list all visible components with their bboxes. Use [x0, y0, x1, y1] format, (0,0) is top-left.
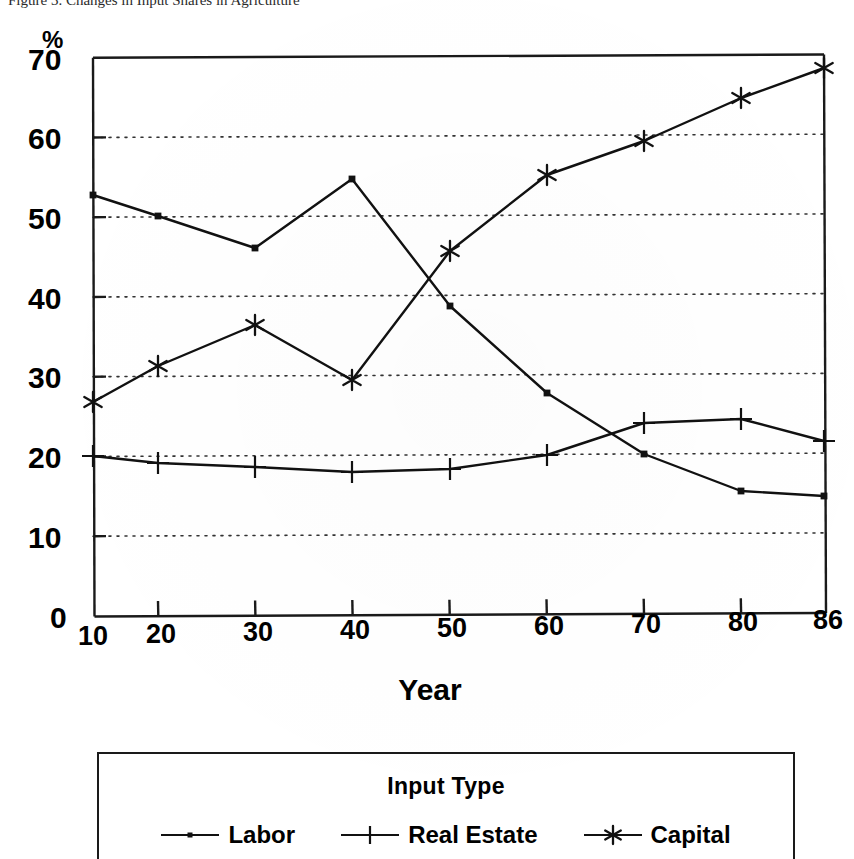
- legend-item-real-estate[interactable]: Real Estate: [341, 821, 537, 849]
- legend: Input Type Labor Real Estate: [97, 752, 795, 859]
- data-point: [815, 58, 832, 78]
- data-point: [155, 213, 162, 220]
- data-point: [246, 315, 263, 335]
- y-tick-label: 70: [28, 43, 61, 76]
- data-point: [82, 445, 104, 467]
- x-tick-label: 10: [78, 621, 108, 651]
- data-point: [147, 452, 169, 474]
- line-chart: % 70 60 50 40 30 20 10 0 10 20 30 40 50 …: [0, 0, 854, 720]
- gridline-30: [93, 373, 824, 376]
- series-lines: [93, 68, 824, 496]
- y-tick-label: 0: [50, 601, 67, 634]
- x-tick-label: 50: [437, 613, 467, 643]
- y-tick-label: 30: [28, 361, 61, 394]
- data-point: [635, 131, 652, 151]
- legend-item-capital[interactable]: Capital: [584, 821, 731, 849]
- y-tick-label: 20: [28, 441, 61, 474]
- data-point: [730, 408, 752, 430]
- legend-label: Capital: [651, 821, 731, 849]
- x-tick-label: 70: [631, 609, 661, 639]
- data-point: [90, 192, 97, 199]
- gridline-60: [93, 134, 824, 137]
- data-point: [732, 88, 749, 108]
- series-line-labor: [93, 179, 824, 496]
- y-tick-label: 40: [28, 282, 61, 315]
- data-point: [447, 303, 454, 310]
- data-point: [349, 176, 356, 183]
- series-line-capital: [93, 68, 824, 402]
- data-point: [149, 356, 166, 376]
- data-point: [538, 165, 555, 185]
- data-point: [536, 444, 558, 466]
- gridline-20: [93, 453, 824, 456]
- plot-frame-left: [93, 58, 95, 617]
- legend-label: Real Estate: [408, 821, 537, 849]
- legend-label: Labor: [228, 821, 295, 849]
- plot-frame-top: [93, 55, 824, 58]
- data-point: [341, 461, 363, 483]
- data-point: [252, 245, 259, 252]
- asterisk-marker-icon: [584, 825, 642, 845]
- x-tick-label: 30: [243, 617, 273, 647]
- plus-marker-icon: [341, 825, 399, 845]
- data-point: [544, 390, 551, 397]
- gridline-40: [93, 294, 824, 297]
- x-tick-label: 20: [146, 619, 176, 649]
- x-axis-title: Year: [398, 673, 462, 706]
- data-point: [813, 430, 835, 452]
- y-tick-label: 50: [28, 202, 61, 235]
- gridline-50: [93, 214, 824, 217]
- legend-entries: Labor Real Estate Capital: [99, 821, 793, 849]
- y-tick-label: 10: [28, 521, 61, 554]
- data-point: [738, 488, 745, 495]
- markers-capital: [84, 58, 832, 412]
- legend-item-labor[interactable]: Labor: [161, 821, 295, 849]
- y-tick-labels: 70 60 50 40 30 20 10 0: [28, 43, 67, 634]
- figure-root: Figure 3. Changes in Input Shares in Agr…: [0, 0, 854, 859]
- markers-labor: [90, 176, 828, 500]
- legend-title: Input Type: [99, 773, 793, 800]
- series-line-real-estate: [93, 419, 824, 472]
- x-tick-labels: 10 20 30 40 50 60 70 80 86: [78, 605, 843, 651]
- x-tick-label: 86: [813, 605, 843, 635]
- gridlines: [93, 134, 824, 536]
- dot-marker-icon: [161, 825, 219, 845]
- data-point: [244, 456, 266, 478]
- x-tick-label: 80: [728, 607, 758, 637]
- gridline-10: [93, 533, 824, 536]
- plot-frame-right: [824, 55, 826, 614]
- plot-frame: [93, 55, 826, 617]
- x-tick-label: 40: [340, 615, 370, 645]
- x-tick-label: 60: [534, 611, 564, 641]
- data-point: [821, 493, 828, 500]
- data-point: [633, 412, 655, 434]
- data-point: [84, 392, 101, 412]
- data-point: [641, 451, 648, 458]
- y-tick-label: 60: [28, 122, 61, 155]
- data-point: [439, 458, 461, 480]
